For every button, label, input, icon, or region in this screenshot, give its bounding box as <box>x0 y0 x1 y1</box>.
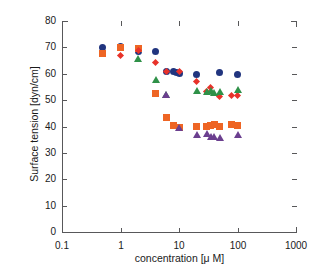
surface-tension-scatter-chart: 01020304050607080 0.11101001000 concentr… <box>0 0 323 278</box>
x-tick-label: 1000 <box>285 240 307 251</box>
plot-area <box>62 21 296 232</box>
x-tick-label: 100 <box>230 240 247 251</box>
x-tick-label-wrap: 1000 <box>266 235 323 247</box>
y-tick-mark <box>63 232 67 233</box>
x-tick-label-wrap: 1 <box>91 235 151 247</box>
x-axis-title: concentration [μ M] <box>62 252 297 264</box>
x-tick-label-wrap: 10 <box>149 235 209 247</box>
x-tick-label: 0.1 <box>55 240 69 251</box>
x-tick-label: 10 <box>173 240 184 251</box>
y-axis-title: Surface tension [dyn/cm] <box>28 24 40 224</box>
x-tick-label-wrap: 100 <box>208 235 268 247</box>
x-tick-mark <box>296 228 297 233</box>
x-tick-mark-top <box>296 21 297 26</box>
x-tick-label-wrap: 0.1 <box>32 235 92 247</box>
x-tick-label: 1 <box>118 240 124 251</box>
